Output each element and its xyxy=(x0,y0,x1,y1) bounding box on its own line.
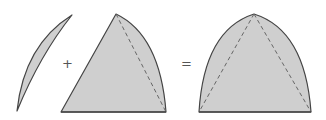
equation-diagram: + = xyxy=(0,0,326,120)
diagram-canvas xyxy=(0,0,326,120)
curved-triangle-shape xyxy=(61,14,166,112)
plus-sign: + xyxy=(62,57,73,70)
result-shape xyxy=(199,14,311,112)
equals-sign: = xyxy=(181,57,192,70)
